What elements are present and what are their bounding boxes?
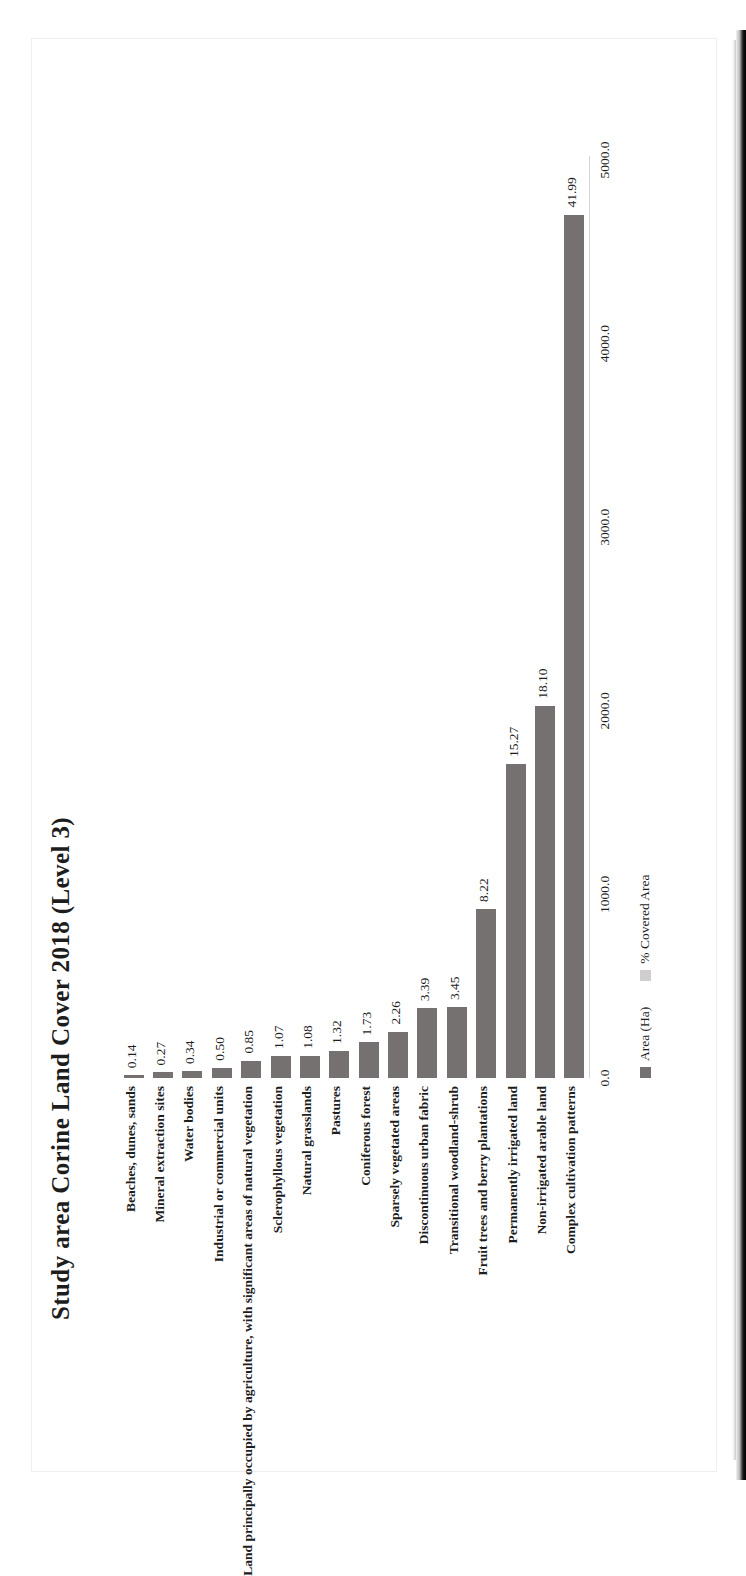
x-axis-tick-label: 4000.0 xyxy=(597,325,613,362)
legend-label: % Covered Area xyxy=(637,874,653,963)
bar-row: Fruit trees and berry plantations8.22 xyxy=(473,160,499,1078)
chart-title: Study area Corine Land Cover 2018 (Level… xyxy=(47,420,75,1320)
bar-value-label: 3.45 xyxy=(447,976,463,1000)
bar-row: Coniferous forest1.73 xyxy=(356,160,382,1078)
category-label: Mineral extraction sites xyxy=(152,1086,168,1222)
bar xyxy=(271,1056,291,1078)
bar-row: Sclerophyllous vegetation1.07 xyxy=(268,160,294,1078)
bar-value-label: 8.22 xyxy=(476,878,492,902)
bar-value-label: 1.32 xyxy=(329,1020,345,1044)
legend-label: Area (Ha) xyxy=(637,1007,653,1061)
bar-row: Natural grasslands1.08 xyxy=(297,160,323,1078)
bar-value-label: 0.50 xyxy=(212,1037,228,1061)
bar xyxy=(212,1068,232,1078)
bar-value-label: 41.99 xyxy=(564,177,580,207)
x-axis-tick-label: 5000.0 xyxy=(597,141,613,178)
category-label: Non-irrigated arable land xyxy=(534,1086,550,1235)
scan-gutter-dark xyxy=(736,30,746,1480)
bar-row: Industrial or commercial units0.50 xyxy=(209,160,235,1078)
category-label: Discontinuous urban fabric xyxy=(416,1086,432,1244)
chart-legend: Area (Ha)% Covered Area xyxy=(635,874,655,1078)
rotated-chart-canvas: Study area Corine Land Cover 2018 (Level… xyxy=(31,38,715,1470)
legend-entry: % Covered Area xyxy=(637,874,653,980)
x-axis-tick-label: 1000.0 xyxy=(597,876,613,913)
bar-row: Beaches, dunes, sands0.14 xyxy=(121,160,147,1078)
bar-value-label: 1.08 xyxy=(300,1025,316,1049)
bar-row: Permanently irrigated land15.27 xyxy=(503,160,529,1078)
category-label: Permanently irrigated land xyxy=(505,1086,521,1243)
category-label: Beaches, dunes, sands xyxy=(123,1086,139,1212)
bar xyxy=(182,1071,202,1078)
bar xyxy=(447,1007,467,1078)
x-axis-tick-label: 2000.0 xyxy=(597,692,613,729)
category-label: Sparsely vegetated areas xyxy=(387,1086,403,1227)
bar xyxy=(359,1042,379,1078)
bar xyxy=(564,215,584,1078)
category-label: Natural grasslands xyxy=(299,1086,315,1195)
bar xyxy=(153,1072,173,1078)
bar-value-label: 2.26 xyxy=(388,1001,404,1025)
bar-row: Sparsely vegetated areas2.26 xyxy=(385,160,411,1078)
category-label: Water bodies xyxy=(181,1086,197,1162)
axis-baseline xyxy=(589,156,590,1078)
bar-value-label: 0.27 xyxy=(153,1042,169,1066)
category-label: Fruit trees and berry plantations xyxy=(475,1086,491,1276)
bar-row: Water bodies0.34 xyxy=(179,160,205,1078)
plot-area: Beaches, dunes, sands0.14Mineral extract… xyxy=(119,160,589,1078)
bar-row: Discontinuous urban fabric3.39 xyxy=(414,160,440,1078)
bar xyxy=(241,1061,261,1078)
bar xyxy=(417,1008,437,1078)
category-label: Pastures xyxy=(328,1086,344,1135)
category-label: Complex cultivation patterns xyxy=(563,1086,579,1254)
bar-value-label: 18.10 xyxy=(535,668,551,698)
legend-swatch-icon xyxy=(640,1067,651,1078)
category-label: Land principally occupied by agriculture… xyxy=(240,1086,256,1576)
category-label: Coniferous forest xyxy=(358,1086,374,1186)
bar xyxy=(476,909,496,1078)
bar-value-label: 1.07 xyxy=(271,1025,287,1049)
bar-value-label: 0.34 xyxy=(182,1040,198,1064)
bar-row: Mineral extraction sites0.27 xyxy=(150,160,176,1078)
category-label: Sclerophyllous vegetation xyxy=(270,1086,286,1233)
bar-value-label: 0.85 xyxy=(241,1030,257,1054)
bar-row: Non-irrigated arable land18.10 xyxy=(532,160,558,1078)
bar-row: Transitional woodland-shrub3.45 xyxy=(444,160,470,1078)
category-label: Transitional woodland-shrub xyxy=(446,1086,462,1254)
bar-value-label: 3.39 xyxy=(417,978,433,1002)
bar-value-label: 1.73 xyxy=(359,1012,375,1036)
bar xyxy=(300,1056,320,1078)
bar xyxy=(535,706,555,1078)
bar-value-label: 15.27 xyxy=(506,727,522,757)
legend-swatch-icon xyxy=(640,970,651,981)
bar-row: Land principally occupied by agriculture… xyxy=(238,160,264,1078)
x-axis-tick-label: 0.0 xyxy=(597,1070,613,1087)
bar xyxy=(388,1032,408,1078)
bar-row: Pastures1.32 xyxy=(326,160,352,1078)
bar xyxy=(506,764,526,1078)
bar-value-label: 0.14 xyxy=(124,1045,140,1069)
bar xyxy=(124,1075,144,1078)
bar xyxy=(329,1051,349,1078)
x-axis-ticks: 0.01000.02000.03000.04000.05000.0 xyxy=(597,156,623,1078)
legend-entry: Area (Ha) xyxy=(637,1007,653,1078)
category-label: Industrial or commercial units xyxy=(211,1086,227,1262)
bar-row: Complex cultivation patterns41.99 xyxy=(561,160,587,1078)
x-axis-tick-label: 3000.0 xyxy=(597,509,613,546)
